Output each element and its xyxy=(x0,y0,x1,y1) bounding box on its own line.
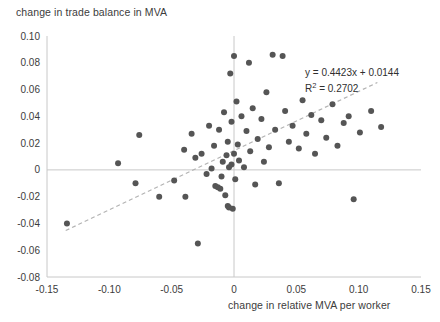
y-tick-label: 0.02 xyxy=(21,138,41,149)
regression-annotation: y = 0.4423x + 0.0144 R2 = 0.2702 xyxy=(305,66,399,95)
data-point xyxy=(189,131,195,137)
data-point xyxy=(250,105,256,111)
data-point xyxy=(272,127,278,133)
data-point xyxy=(334,143,340,149)
data-point xyxy=(206,123,212,129)
y-tick-label: 0.06 xyxy=(21,84,41,95)
data-point xyxy=(312,151,318,157)
data-point xyxy=(225,139,231,145)
data-point xyxy=(261,159,267,165)
data-point xyxy=(231,151,237,157)
data-point xyxy=(199,151,205,157)
data-point xyxy=(235,141,241,147)
data-point xyxy=(219,174,225,180)
x-axis-label: change in relative MVA per worker xyxy=(228,299,390,311)
y-tick-label: 0 xyxy=(34,164,40,175)
data-point xyxy=(231,53,237,59)
x-tick-label: 0.15 xyxy=(411,284,431,295)
data-point xyxy=(229,162,235,168)
data-point xyxy=(247,148,253,154)
data-point xyxy=(280,53,286,59)
data-point xyxy=(263,89,269,95)
data-point xyxy=(233,99,239,105)
data-point xyxy=(136,132,142,138)
data-point xyxy=(204,171,210,177)
data-point xyxy=(115,160,121,166)
data-point xyxy=(224,152,230,158)
data-point xyxy=(211,143,217,149)
x-tick-label: 0.10 xyxy=(349,284,369,295)
scatter-chart: change in trade balance in MVA 0.100.080… xyxy=(0,0,440,322)
y-tick-label: -0.08 xyxy=(17,272,40,283)
data-point xyxy=(232,176,238,182)
x-tick-label: 0 xyxy=(231,284,237,295)
data-point xyxy=(308,112,314,118)
data-point xyxy=(323,135,329,141)
x-tick-label: -0.05 xyxy=(160,284,183,295)
y-tick-label: 0.08 xyxy=(21,57,41,68)
data-point xyxy=(156,194,162,200)
y-tick-label: -0.06 xyxy=(17,245,40,256)
data-point xyxy=(303,131,309,137)
data-point xyxy=(181,147,187,153)
data-point xyxy=(290,123,296,129)
data-point xyxy=(296,145,302,151)
data-point xyxy=(351,196,357,202)
y-tick-label: 0.04 xyxy=(21,111,41,122)
r-squared-number: = 0.2702 xyxy=(316,83,358,94)
y-tick-label: 0.10 xyxy=(21,31,41,42)
data-point xyxy=(64,220,70,226)
data-point xyxy=(241,164,247,170)
data-point xyxy=(329,101,335,107)
data-point xyxy=(282,108,288,114)
data-point xyxy=(217,186,223,192)
x-tick-label: 0.05 xyxy=(287,284,307,295)
data-point xyxy=(243,128,249,134)
data-point xyxy=(229,119,235,125)
plot-area: 0.100.080.060.040.020-0.02-0.04-0.06-0.0… xyxy=(0,0,440,322)
data-point xyxy=(227,70,233,76)
y-tick-label: -0.02 xyxy=(17,191,40,202)
data-point xyxy=(276,180,282,186)
data-point xyxy=(238,113,244,119)
data-point xyxy=(346,113,352,119)
data-point xyxy=(171,178,177,184)
r-squared-value: R2 = 0.2702 xyxy=(305,79,399,95)
data-point xyxy=(357,129,363,135)
regression-equation: y = 0.4423x + 0.0144 xyxy=(305,66,399,79)
data-point xyxy=(220,159,226,165)
y-tick-label: -0.04 xyxy=(17,218,40,229)
data-point xyxy=(286,139,292,145)
data-point xyxy=(216,127,222,133)
data-point xyxy=(318,117,324,123)
data-point xyxy=(221,109,227,115)
data-point xyxy=(252,182,258,188)
data-point xyxy=(195,241,201,247)
data-point xyxy=(270,52,276,58)
data-point xyxy=(182,194,188,200)
data-point xyxy=(255,136,261,142)
data-point xyxy=(246,60,252,66)
data-point xyxy=(300,97,306,103)
data-point xyxy=(236,158,242,164)
data-point xyxy=(378,124,384,130)
data-point xyxy=(368,108,374,114)
data-point xyxy=(209,166,215,172)
data-point xyxy=(266,144,272,150)
data-point xyxy=(192,155,198,161)
data-point xyxy=(222,192,228,198)
x-tick-label: -0.15 xyxy=(36,284,59,295)
data-point xyxy=(230,206,236,212)
data-point xyxy=(133,180,139,186)
x-tick-label: -0.10 xyxy=(98,284,121,295)
data-point xyxy=(258,116,264,122)
data-point xyxy=(341,120,347,126)
